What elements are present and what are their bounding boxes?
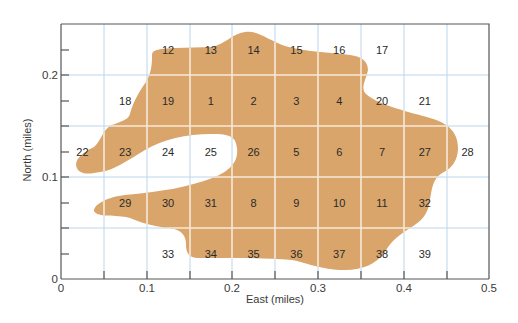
cell-label-11: 11: [376, 197, 387, 209]
cell-label-34: 34: [205, 248, 217, 260]
cell-label-33: 33: [162, 248, 174, 260]
cell-label-38: 38: [376, 248, 388, 260]
cell-label-35: 35: [247, 248, 259, 260]
y-tick-label: 0: [52, 273, 58, 285]
cell-label-4: 4: [336, 95, 342, 107]
x-axis-title: East (miles): [246, 293, 304, 305]
cell-label-19: 19: [162, 95, 174, 107]
cell-label-14: 14: [247, 44, 259, 56]
grid-map: 0 0.1 0.2 0.3 0.4 0.5 0 0.1 0.2 East (mi…: [0, 0, 518, 323]
cell-label-8: 8: [251, 197, 257, 209]
cell-label-12: 12: [162, 44, 174, 56]
cell-label-2: 2: [251, 95, 257, 107]
cell-label-29: 29: [119, 197, 131, 209]
y-tick-label: 0.2: [42, 69, 58, 81]
cell-label-16: 16: [333, 44, 345, 56]
cell-label-5: 5: [293, 146, 299, 158]
x-tick-label: 0.1: [139, 282, 155, 294]
cell-label-3: 3: [293, 95, 299, 107]
cell-label-30: 30: [162, 197, 174, 209]
cell-label-39: 39: [419, 248, 431, 260]
cell-label-10: 10: [333, 197, 345, 209]
cell-label-24: 24: [162, 146, 174, 158]
cell-label-31: 31: [205, 197, 217, 209]
cell-label-25: 25: [205, 146, 217, 158]
cell-label-13: 13: [205, 44, 217, 56]
y-axis-title: North (miles): [21, 119, 33, 182]
y-tick-labels: 0 0.1 0.2: [42, 69, 58, 285]
cell-label-15: 15: [290, 44, 302, 56]
cell-label-21: 21: [419, 95, 431, 107]
cell-label-1: 1: [208, 95, 214, 107]
x-tick-label: 0.3: [310, 282, 326, 294]
cell-label-18: 18: [119, 95, 131, 107]
cell-label-36: 36: [290, 248, 302, 260]
x-tick-label: 0: [58, 282, 64, 294]
x-tick-label: 0.5: [481, 282, 497, 294]
cell-label-28: 28: [461, 146, 473, 158]
x-tick-label: 0.2: [224, 282, 240, 294]
cell-label-37: 37: [333, 248, 345, 260]
cell-label-32: 32: [419, 197, 431, 209]
cell-label-22: 22: [76, 146, 88, 158]
y-tick-label: 0.1: [42, 171, 58, 183]
cell-label-6: 6: [336, 146, 342, 158]
cell-label-17: 17: [376, 44, 388, 56]
cell-label-26: 26: [247, 146, 259, 158]
cell-label-27: 27: [419, 146, 431, 158]
x-tick-label: 0.4: [396, 282, 413, 294]
cell-label-23: 23: [119, 146, 131, 158]
cell-label-20: 20: [376, 95, 388, 107]
cell-label-9: 9: [293, 197, 299, 209]
cell-label-7: 7: [379, 146, 385, 158]
